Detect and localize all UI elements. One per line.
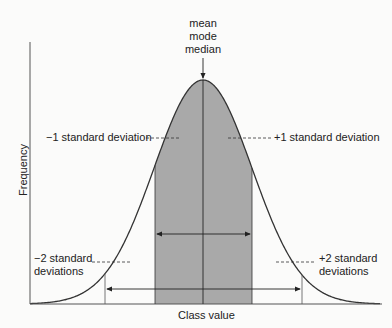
x-axis-label: Class value bbox=[178, 309, 235, 322]
y-axis-label: Frequency bbox=[17, 144, 29, 196]
minus-one-sd-label: −1 standard deviation bbox=[46, 131, 152, 144]
normal-distribution-diagram: mean mode median −1 standard deviation +… bbox=[0, 0, 392, 328]
plus-one-sd-label: +1 standard deviation bbox=[274, 131, 380, 144]
minus-two-sd-label: −2 standard deviations bbox=[34, 252, 92, 278]
mean-label: mean bbox=[181, 17, 225, 30]
plus-two-sd-label-line2: deviations bbox=[319, 265, 377, 278]
minus-two-sd-label-line1: −2 standard bbox=[34, 252, 92, 265]
plus-two-sd-label: +2 standard deviations bbox=[319, 252, 377, 278]
minus-two-sd-label-line2: deviations bbox=[34, 265, 92, 278]
median-label: median bbox=[181, 43, 225, 56]
mode-label: mode bbox=[181, 30, 225, 43]
center-label-group: mean mode median bbox=[181, 17, 225, 56]
plus-two-sd-label-line1: +2 standard bbox=[319, 252, 377, 265]
